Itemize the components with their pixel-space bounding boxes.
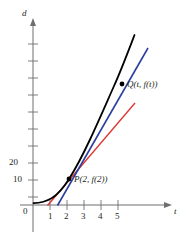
point-label-Q-args: (t, f(t)) (134, 79, 158, 89)
point-label-P-args: (2, f(2)) (80, 174, 108, 184)
x-tick-label-5: 5 (115, 212, 120, 221)
x-tick-label-2: 2 (64, 212, 69, 221)
y-tick-label-10: 10 (13, 175, 22, 184)
point-label-P: P(2, f(2)) (74, 175, 108, 184)
y-axis-group (28, 18, 38, 232)
x-axis-arrow (164, 202, 172, 208)
x-tick-label-4: 4 (98, 212, 103, 221)
x-tick-label-3: 3 (81, 212, 86, 221)
plot-canvas (0, 0, 189, 244)
point-label-Q: Q(t, f(t)) (127, 80, 158, 89)
y-axis-label: d (22, 9, 27, 18)
point-marker-P (67, 177, 72, 182)
point-marker-Q (120, 82, 125, 87)
y-axis-arrow (30, 18, 36, 26)
origin-label: 0 (23, 207, 28, 216)
figure-secant-tangent: d t 0 1 2 3 4 5 10 20 P(2, f(2)) Q(t, f(… (0, 0, 189, 244)
x-tick-label-1: 1 (48, 212, 53, 221)
y-tick-label-20: 20 (9, 158, 18, 167)
x-axis-label: t (174, 207, 177, 216)
